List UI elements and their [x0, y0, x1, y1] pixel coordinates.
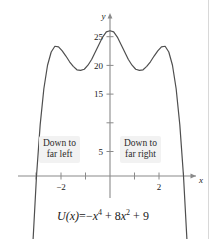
callout-left-line1: Down to [43, 138, 76, 149]
equation-term3-value: 9 [143, 209, 149, 223]
callout-right-line1: Down to [124, 138, 157, 149]
x-tick-label-2: 2 [157, 182, 162, 192]
equation-term2-sign: + [105, 209, 112, 223]
callout-left-line2: far left [43, 149, 76, 160]
equation-term3-sign: + [133, 209, 140, 223]
callout-right-line2: far right [124, 149, 157, 160]
coordinate-plot: −2 2 5 15 20 25 x y [0, 0, 215, 239]
equation-term1-exponent: 4 [98, 208, 102, 217]
y-tick-label-5: 5 [99, 147, 104, 157]
equation-lhs: U(x) [57, 209, 79, 223]
callout-down-to-far-right: Down to far right [120, 136, 161, 163]
x-tick-label--2: −2 [56, 182, 66, 192]
callout-down-to-far-left: Down to far left [39, 136, 80, 163]
equation-equals-sign: = [79, 209, 86, 223]
equation-caption: U(x)=−x4 + 8x2 + 9 [0, 208, 206, 224]
y-axis-arrow [108, 13, 113, 19]
equation-term1-sign: − [86, 209, 93, 223]
y-tick-label-20: 20 [94, 61, 104, 71]
y-axis-label: y [101, 11, 106, 21]
figure-panel: −2 2 5 15 20 25 x y Down to far left Dow… [0, 0, 215, 239]
equation-term2-exponent: 2 [126, 208, 130, 217]
x-axis-label: x [198, 175, 203, 185]
x-axis-arrow [191, 174, 197, 179]
y-tick-label-15: 15 [94, 89, 104, 99]
